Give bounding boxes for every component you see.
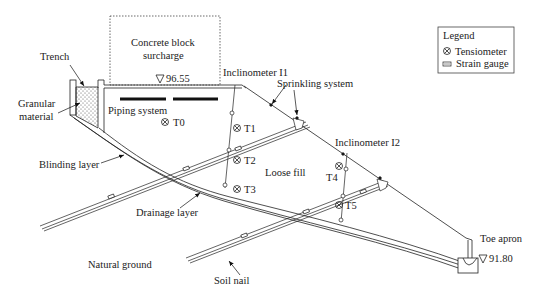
blinding-drainage-layer	[70, 115, 470, 272]
svg-text:T0: T0	[173, 117, 185, 128]
label-trench: Trench	[40, 51, 70, 62]
svg-text:T1: T1	[244, 123, 256, 134]
svg-text:T4: T4	[326, 172, 338, 183]
inclinometer-i2	[339, 153, 348, 222]
label-concrete-block-2: surcharge	[143, 50, 184, 61]
tensiometer-t3: T3	[234, 184, 256, 195]
legend-strain-gauge-label: Strain gauge	[456, 58, 509, 69]
trench	[70, 80, 98, 128]
label-inclinometer-i1: Inclinometer I1	[223, 67, 288, 78]
legend-title: Legend	[443, 30, 475, 41]
label-blinding-layer: Blinding layer	[39, 159, 100, 170]
elevation-marker-top: 96.55	[156, 73, 190, 84]
label-piping-system: Piping system	[108, 105, 167, 116]
legend-tensiometer-label: Tensiometer	[455, 46, 507, 57]
inclinometer-i1	[223, 85, 235, 188]
label-natural-ground: Natural ground	[88, 259, 153, 270]
label-drainage-layer: Drainage layer	[136, 207, 199, 218]
label-concrete-block-1: Concrete block	[131, 37, 196, 48]
svg-text:96.55: 96.55	[166, 73, 190, 84]
slope-instrumentation-diagram: 96.55 91.80 Trench Granular material Con…	[0, 0, 539, 289]
elevation-marker-toe: 91.80	[479, 253, 513, 264]
legend: Legend Tensiometer Strain gauge	[438, 27, 514, 73]
tensiometer-t1: T1	[234, 123, 256, 134]
svg-text:T5: T5	[345, 200, 357, 211]
tensiometer-t2: T2	[234, 155, 256, 166]
svg-text:T2: T2	[244, 155, 256, 166]
strain-gauge-icon	[443, 62, 451, 66]
label-soil-nail: Soil nail	[214, 275, 249, 286]
label-inclinometer-i2: Inclinometer I2	[335, 137, 400, 148]
label-granular-2: material	[19, 111, 53, 122]
label-toe-apron: Toe apron	[480, 233, 523, 244]
tensiometer-t0: T0	[162, 117, 185, 128]
toe-apron	[458, 238, 478, 273]
svg-text:T3: T3	[244, 184, 256, 195]
svg-text:91.80: 91.80	[489, 253, 513, 264]
label-granular-1: Granular	[18, 98, 56, 109]
label-sprinkling-system: Sprinkling system	[277, 78, 353, 89]
tensiometer-t5: T5	[336, 200, 357, 211]
tensiometer-t4: T4	[326, 163, 343, 184]
label-loose-fill: Loose fill	[265, 167, 306, 178]
